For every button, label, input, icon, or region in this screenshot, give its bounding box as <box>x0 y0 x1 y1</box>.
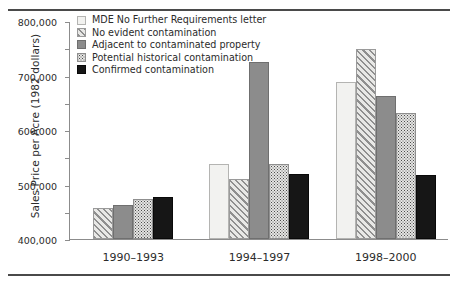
bar-confirmed <box>289 174 309 239</box>
legend-swatch-icon <box>77 28 86 37</box>
legend-item-confirmed: Confirmed contamination <box>77 64 266 76</box>
legend-item-label: Adjacent to contaminated property <box>92 40 261 50</box>
bottom-divider-rule <box>8 274 450 276</box>
legend-item-no_evident: No evident contamination <box>77 26 266 38</box>
legend-item-potential_historical: Potential historical contamination <box>77 51 266 63</box>
x-axis-tick-label: 1994–1997 <box>229 251 291 264</box>
legend-item-label: Confirmed contamination <box>92 65 214 75</box>
y-axis-tick: 0 <box>65 240 70 241</box>
bar-confirmed <box>416 175 436 239</box>
legend-swatch-icon <box>77 53 86 62</box>
bar-potential_historical <box>269 164 289 239</box>
y-axis-tick-label: 500,000 <box>18 180 57 191</box>
bar-group: 1998–2000 <box>323 22 449 239</box>
bar-group-bars <box>323 22 449 239</box>
legend-item-mde: MDE No Further Requirements letter <box>77 14 266 26</box>
legend-item-label: Potential historical contamination <box>92 53 253 63</box>
legend-swatch-icon <box>77 40 86 49</box>
bar-no_evident <box>229 179 249 239</box>
legend-swatch-icon <box>77 16 86 25</box>
legend-swatch-icon <box>77 65 86 74</box>
x-axis-tick-label: 1998–2000 <box>355 251 417 264</box>
x-axis-tick-label: 1990–1993 <box>102 251 164 264</box>
legend-item-label: MDE No Further Requirements letter <box>92 15 266 25</box>
bar-potential_historical <box>133 199 153 239</box>
top-divider-rule <box>8 9 450 11</box>
bar-mde <box>209 164 229 239</box>
y-axis-tick-label: 400,000 <box>18 235 57 246</box>
bar-potential_historical <box>396 113 416 239</box>
bar-confirmed <box>153 197 173 239</box>
chart-figure: Sales Price per Acre (1982 dollars) 0100… <box>0 0 458 283</box>
bar-mde <box>336 82 356 240</box>
bar-adjacent <box>249 62 269 239</box>
y-axis-tick-label: 600,000 <box>18 126 57 137</box>
y-axis-tick-label: 800,000 <box>18 17 57 28</box>
y-axis-tick-label: 700,000 <box>18 71 57 82</box>
chart-legend: MDE No Further Requirements letterNo evi… <box>77 14 266 76</box>
bar-no_evident <box>356 49 376 239</box>
legend-item-label: No evident contamination <box>92 28 216 38</box>
bar-adjacent <box>376 96 396 239</box>
bar-adjacent <box>113 205 133 239</box>
legend-item-adjacent: Adjacent to contaminated property <box>77 39 266 51</box>
bar-no_evident <box>93 208 113 239</box>
